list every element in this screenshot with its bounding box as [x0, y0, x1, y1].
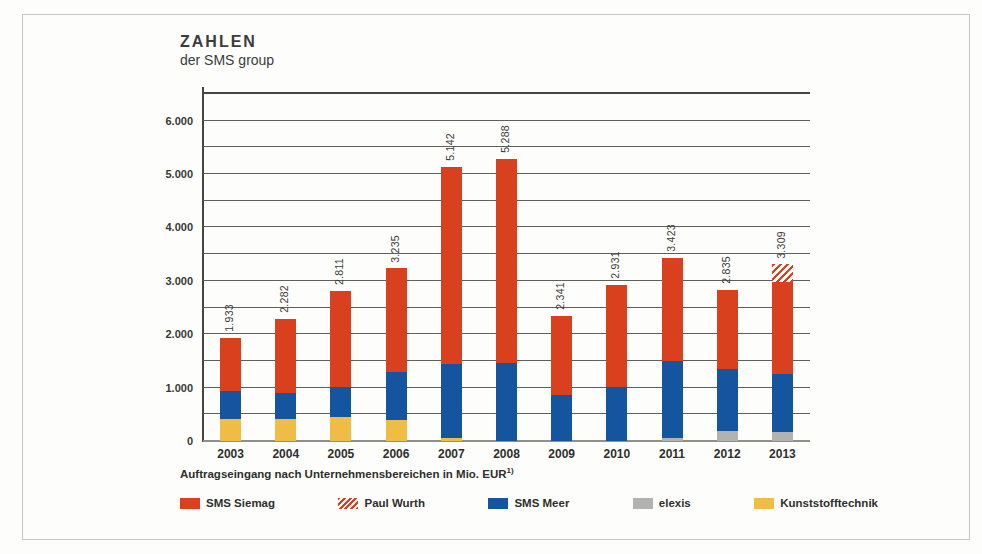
chart-caption: Auftragseingang nach Unternehmensbereich… [180, 466, 514, 480]
y-tick-label-0: 0 [141, 435, 193, 447]
bar-segment-sms-meer-2008 [496, 363, 517, 441]
footnote-marker: 1) [507, 466, 514, 475]
bar-segment-sms-siemag-2004 [275, 319, 296, 393]
bar-segment-sms-meer-2005 [330, 387, 351, 417]
bar-segment-sms-siemag-2005 [330, 291, 351, 387]
y-tick-label-1.000: 1.000 [141, 382, 193, 394]
legend-label: Kunststofftechnik [780, 497, 878, 509]
legend-item-sms-meer: SMS Meer [488, 497, 569, 509]
bar-value-label-2011: 3.423 [665, 224, 677, 252]
bar-segment-sms-meer-2009 [551, 395, 572, 441]
y-tick-label-6.000: 6.000 [141, 115, 193, 127]
legend-label: SMS Meer [514, 497, 569, 509]
legend-item-kunststofftechnik: Kunststofftechnik [754, 497, 878, 509]
legend-swatch-icon [338, 498, 358, 509]
bar-value-label-2009: 2.341 [554, 282, 566, 310]
bar-segment-kunststofftechnik-2006 [386, 420, 407, 441]
chart-title: ZAHLEN [180, 33, 257, 51]
bar-value-label-2012: 2.835 [720, 256, 732, 284]
x-tick-label-2010: 2010 [590, 447, 644, 461]
bar-value-label-2010: 2.931 [609, 251, 621, 279]
legend-swatch-icon [754, 498, 774, 509]
x-tick-label-2011: 2011 [645, 447, 699, 461]
legend-item-paul-wurth: Paul Wurth [338, 497, 424, 509]
x-tick-label-2003: 2003 [204, 447, 258, 461]
bar-segment-sms-siemag-2011 [662, 258, 683, 361]
bar-value-label-2008: 5.288 [499, 125, 511, 153]
y-tick-label-3.000: 3.000 [141, 275, 193, 287]
x-tick-label-2012: 2012 [700, 447, 754, 461]
legend-label: elexis [659, 497, 691, 509]
bar-segment-sms-meer-2012 [717, 369, 738, 431]
caption-text: Auftragseingang nach Unternehmensbereich… [180, 468, 507, 480]
bar-segment-sms-siemag-2012 [717, 290, 738, 369]
bar-segment-sms-meer-2006 [386, 372, 407, 420]
bar-segment-elexis-2013 [772, 432, 793, 441]
bar-segment-sms-siemag-2013 [772, 282, 793, 373]
x-tick-label-2004: 2004 [259, 447, 313, 461]
x-tick-label-2008: 2008 [480, 447, 534, 461]
legend-swatch-icon [488, 498, 508, 509]
chart-subtitle: der SMS group [180, 52, 274, 68]
x-tick-label-2006: 2006 [369, 447, 423, 461]
bar-segment-sms-siemag-2009 [551, 316, 572, 395]
x-tick-label-2007: 2007 [424, 447, 478, 461]
bar-segment-kunststofftechnik-2004 [275, 419, 296, 441]
y-tick-label-5.000: 5.000 [141, 168, 193, 180]
y-axis-line [202, 87, 204, 442]
x-tick-label-2005: 2005 [314, 447, 368, 461]
bar-value-label-2007: 5.142 [444, 133, 456, 161]
bar-value-label-2005: 2.811 [333, 258, 345, 285]
gridline-6500 [203, 92, 810, 94]
bar-value-label-2013: 3.309 [775, 231, 787, 259]
bar-value-label-2004: 2.282 [278, 285, 290, 313]
gridline-6000 [203, 120, 810, 121]
bar-segment-sms-meer-2010 [606, 387, 627, 441]
y-tick-label-2.000: 2.000 [141, 328, 193, 340]
bar-segment-elexis-2011 [662, 438, 683, 441]
bar-segment-sms-meer-2013 [772, 374, 793, 432]
legend-swatch-icon [180, 498, 200, 509]
bar-segment-sms-siemag-2008 [496, 159, 517, 363]
legend-item-sms-siemag: SMS Siemag [180, 497, 275, 509]
bar-value-label-2006: 3.235 [389, 235, 401, 263]
bar-value-label-2003: 1.933 [223, 304, 235, 332]
bar-segment-sms-siemag-2003 [220, 338, 241, 391]
x-tick-label-2013: 2013 [755, 447, 809, 461]
page: ZAHLEN der SMS group 01.0002.0003.0004.0… [0, 0, 982, 554]
legend: SMS SiemagPaul WurthSMS MeerelexisKunsts… [180, 497, 878, 509]
legend-item-elexis: elexis [633, 497, 691, 509]
legend-label: Paul Wurth [364, 497, 424, 509]
bar-segment-elexis-2012 [717, 431, 738, 441]
bar-segment-sms-siemag-2007 [441, 167, 462, 365]
x-tick-label-2009: 2009 [535, 447, 589, 461]
y-tick-label-4.000: 4.000 [141, 221, 193, 233]
bar-segment-kunststofftechnik-2007 [441, 438, 462, 441]
bar-segment-sms-siemag-2006 [386, 268, 407, 372]
bar-segment-sms-meer-2011 [662, 361, 683, 438]
bar-segment-paul-wurth-2013 [772, 264, 793, 282]
bar-segment-kunststofftechnik-2005 [330, 417, 351, 441]
bar-segment-sms-meer-2007 [441, 364, 462, 438]
bar-segment-sms-meer-2004 [275, 393, 296, 419]
plot-area: 01.0002.0003.0004.0005.0006.0001.9332003… [203, 94, 810, 441]
bar-segment-kunststofftechnik-2003 [220, 419, 241, 441]
bar-segment-sms-meer-2003 [220, 391, 241, 418]
legend-label: SMS Siemag [206, 497, 275, 509]
bar-segment-sms-siemag-2010 [606, 285, 627, 387]
legend-swatch-icon [633, 498, 653, 509]
